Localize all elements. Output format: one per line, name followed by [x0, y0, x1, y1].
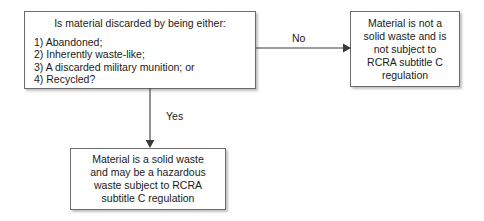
- outcome-line-2: solid waste and is: [357, 30, 453, 43]
- decision-option-4: 4) Recycled?: [34, 73, 248, 85]
- outcome-line-2: and may be a hazardous: [77, 166, 219, 179]
- decision-box-material-discarded: Is material discarded by being either: 1…: [24, 11, 256, 89]
- outcome-line-3: waste subject to RCRA: [77, 179, 219, 192]
- decision-box-title: Is material discarded by being either:: [32, 17, 248, 30]
- connector-no-arrow: [256, 41, 356, 55]
- decision-box-options: 1) Abandoned; 2) Inherently waste-like; …: [32, 36, 248, 85]
- flowchart-canvas: Is material discarded by being either: 1…: [0, 0, 484, 221]
- outcome-line-4: RCRA subtitle C: [357, 56, 453, 69]
- connector-yes-arrow: [143, 88, 157, 152]
- outcome-line-5: regulation: [357, 69, 453, 82]
- decision-option-1: 1) Abandoned;: [34, 36, 248, 48]
- outcome-box-not-solid-waste: Material is not a solid waste and is not…: [350, 11, 460, 87]
- edge-label-no: No: [292, 32, 305, 44]
- outcome-not-solid-waste-text: Material is not a solid waste and is not…: [357, 17, 453, 82]
- outcome-line-1: Material is not a: [357, 17, 453, 30]
- decision-option-3: 3) A discarded military munition; or: [34, 61, 248, 73]
- outcome-is-solid-waste-text: Material is a solid waste and may be a h…: [77, 153, 219, 205]
- outcome-box-is-solid-waste: Material is a solid waste and may be a h…: [70, 148, 226, 210]
- outcome-line-1: Material is a solid waste: [77, 153, 219, 166]
- outcome-line-4: subtitle C regulation: [77, 192, 219, 205]
- decision-option-2: 2) Inherently waste-like;: [34, 48, 248, 60]
- outcome-line-3: not subject to: [357, 43, 453, 56]
- edge-label-yes: Yes: [166, 110, 183, 122]
